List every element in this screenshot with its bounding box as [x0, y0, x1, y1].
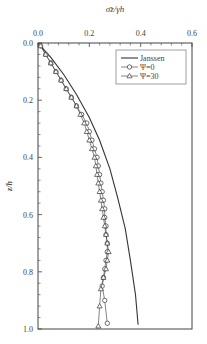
legend-label: Ψ=30	[140, 72, 158, 81]
x-tick-label: 0.0	[33, 29, 43, 38]
x-axis-label: σ̄z/γh	[106, 4, 125, 14]
y-tick-label: 0.8	[23, 268, 33, 277]
y-axis-label: z/h	[5, 181, 14, 192]
y-axis-ticks: 0.00.20.40.60.81.0	[23, 39, 42, 334]
legend: JanssenΨ=0Ψ=30	[116, 50, 186, 84]
y-tick-label: 0.4	[23, 153, 33, 162]
y-tick-label: 1.0	[23, 325, 33, 334]
y-tick-label: 0.0	[23, 39, 33, 48]
chart-canvas: σ̄z/γh z/h 0.00.20.40.6 0.00.20.40.60.81…	[0, 0, 207, 344]
x-tick-label: 0.4	[136, 29, 146, 38]
x-axis-ticks: 0.00.20.40.6	[33, 29, 197, 47]
x-tick-label: 0.6	[187, 29, 197, 38]
stress-depth-chart: σ̄z/γh z/h 0.00.20.40.6 0.00.20.40.60.81…	[0, 0, 207, 344]
y-tick-label: 0.6	[23, 211, 33, 220]
series-Janssen	[38, 43, 138, 325]
x-tick-label: 0.2	[84, 29, 94, 38]
legend-label: Janssen	[140, 54, 164, 63]
y-tick-label: 0.2	[23, 96, 33, 105]
legend-label: Ψ=0	[140, 63, 154, 72]
series-group	[38, 43, 138, 328]
